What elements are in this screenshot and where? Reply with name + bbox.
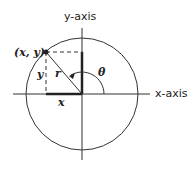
x-axis-label: x-axis: [155, 87, 188, 100]
y-axis-label: y-axis: [64, 10, 97, 23]
x-segment-label: x: [57, 96, 65, 109]
unit-circle-diagram: y-axis x-axis (x, y) r θ x y: [0, 0, 196, 169]
angle-label: θ: [98, 66, 106, 79]
point-label: (x, y): [14, 46, 45, 59]
y-segment-label: y: [36, 68, 45, 81]
